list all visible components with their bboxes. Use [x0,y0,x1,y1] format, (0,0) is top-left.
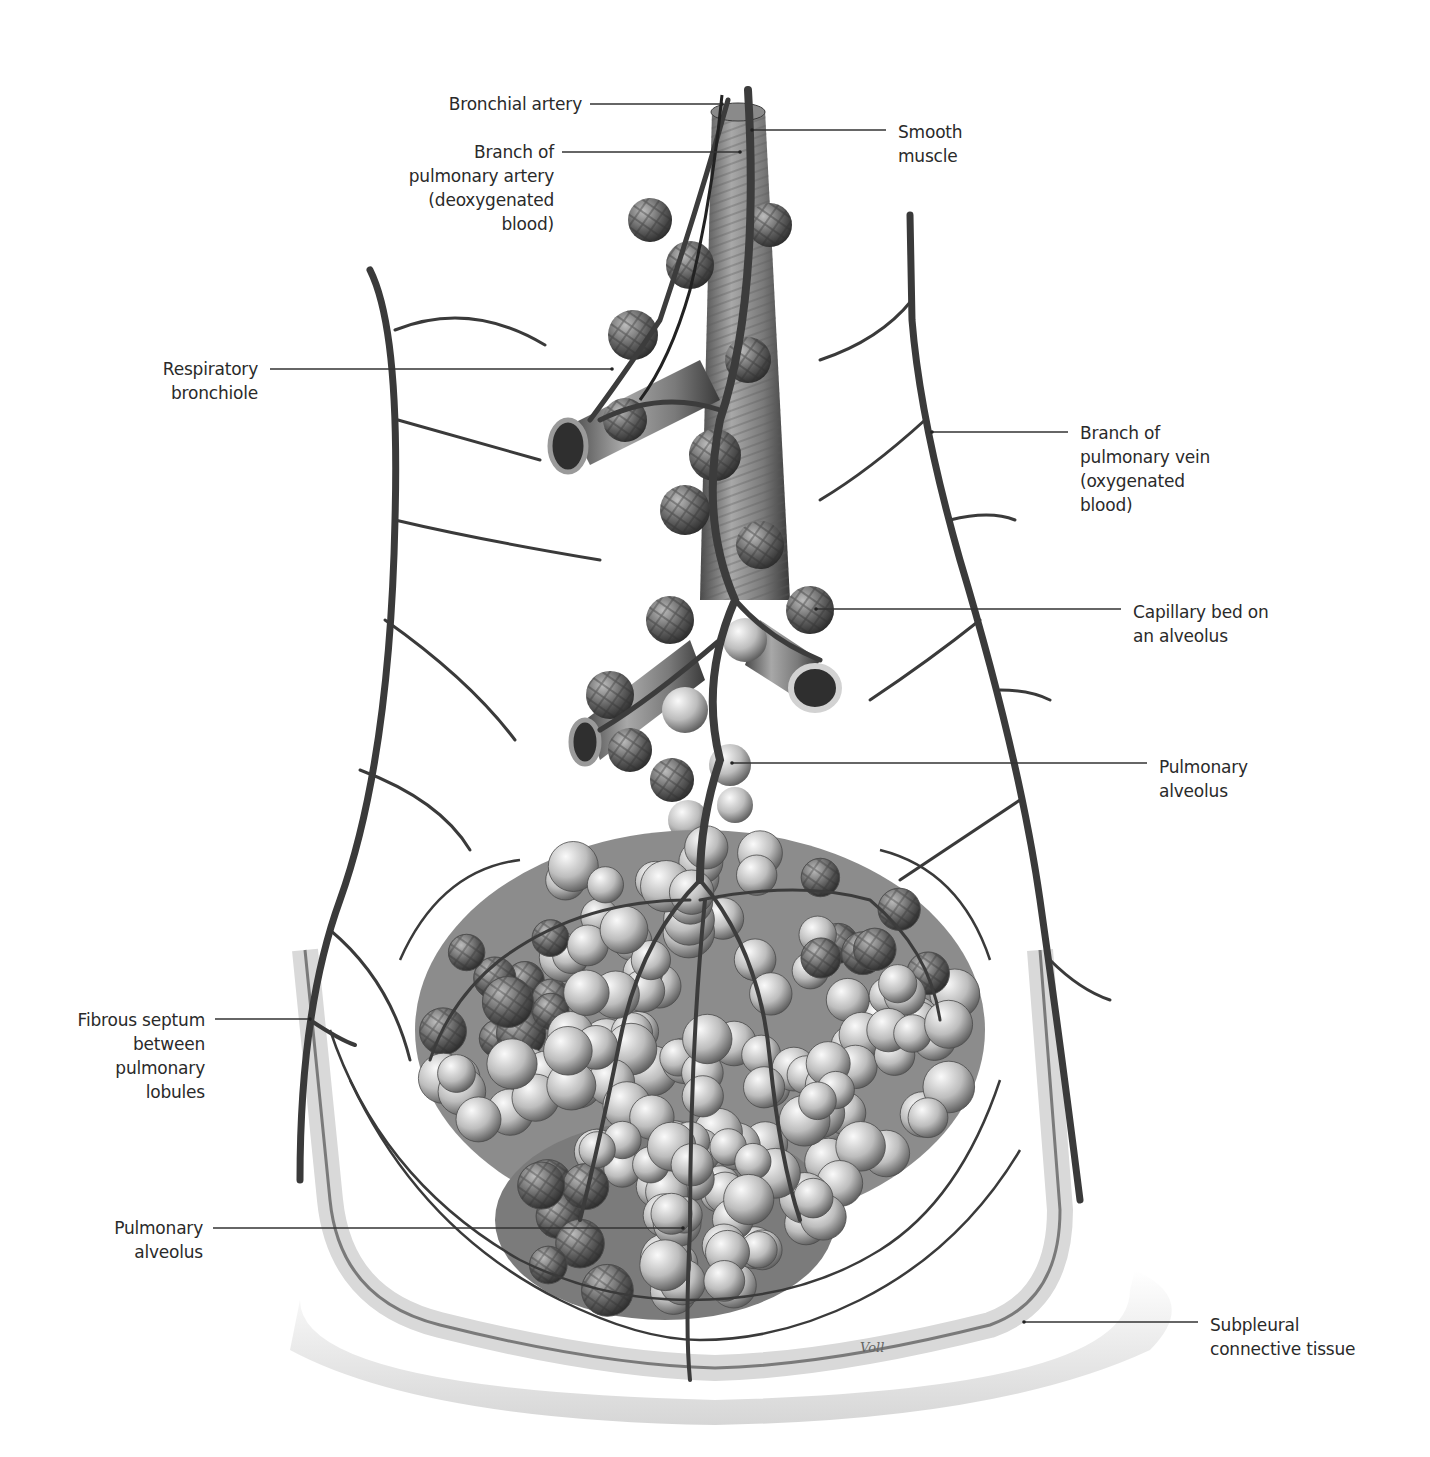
leader-lines [0,0,1430,1457]
artist-signature: Voll [860,1340,884,1355]
label-bronchial-artery: Bronchial artery [436,92,582,116]
pulmonary-lobule-figure: Bronchial artery Branch of pulmonary art… [0,0,1430,1457]
label-pulmonary-vein-branch: Branch of pulmonary vein (oxygenated blo… [1080,421,1240,517]
label-subpleural-tissue: Subpleural connective tissue [1210,1313,1380,1361]
label-fibrous-septum: Fibrous septum between pulmonary lobules [60,1008,205,1104]
label-pulmonary-alveolus-left: Pulmonary alveolus [90,1216,203,1264]
label-capillary-bed: Capillary bed on an alveolus [1133,600,1303,648]
label-pulmonary-artery-branch: Branch of pulmonary artery (deoxygenated… [394,140,554,236]
label-pulmonary-alveolus-right: Pulmonary alveolus [1159,755,1279,803]
label-smooth-muscle: Smooth muscle [898,120,998,168]
label-respiratory-bronchiole: Respiratory bronchiole [140,357,258,405]
